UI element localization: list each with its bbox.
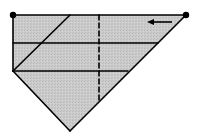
- right-endpoint-dot: [183, 12, 189, 18]
- geometry-diagram: [0, 0, 198, 138]
- left-endpoint-dot: [10, 12, 16, 18]
